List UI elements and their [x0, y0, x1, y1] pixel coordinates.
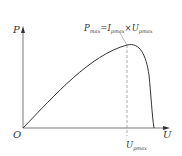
upmax-label: Upmax [126, 140, 147, 152]
power-curve [23, 45, 154, 128]
y-axis-arrow-icon [21, 26, 25, 33]
pmax-annotation: Pmax=Ipmax×Upmax [83, 23, 153, 35]
origin-label: O [13, 129, 21, 140]
y-axis-label: P [12, 24, 20, 35]
x-axis-label: U [163, 129, 172, 140]
svg-text:Pmax=Ipmax×Upmax: Pmax=Ipmax×Upmax [83, 23, 153, 35]
annotation-leader [120, 33, 127, 45]
pu-curve-diagram: P O U Pmax=Ipmax×Upmax Upmax [0, 0, 182, 156]
